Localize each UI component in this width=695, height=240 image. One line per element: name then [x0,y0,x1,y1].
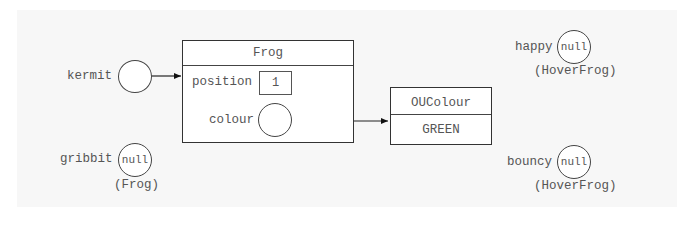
object-divider-frog [183,65,353,66]
object-box-oucolour: OUColour GREEN [390,87,492,145]
variable-value-happy: null [561,41,587,53]
field-label-position: position [192,75,252,89]
variable-label-bouncy: bouncy [507,155,552,169]
variable-circle-bouncy: null [557,145,591,179]
object-value-oucolour: GREEN [391,123,491,137]
object-divider-oucolour [391,114,491,115]
variable-circle-kermit [118,60,152,93]
variable-value-gribbit: null [122,154,148,166]
field-circle-colour [258,103,292,137]
field-value-position: 1 [259,71,292,95]
object-class-name-oucolour: OUColour [391,96,491,110]
variable-type-happy: (HoverFrog) [534,64,617,78]
variable-label-happy: happy [515,40,553,54]
variable-type-bouncy: (HoverFrog) [534,179,617,193]
variable-label-gribbit: gribbit [60,152,113,166]
object-class-name-frog: Frog [183,46,353,60]
variable-value-bouncy: null [561,156,587,168]
variable-circle-happy: null [557,30,591,64]
variable-type-gribbit: (Frog) [114,178,159,192]
variable-circle-gribbit: null [118,143,152,177]
variable-label-kermit: kermit [67,69,112,83]
field-label-colour: colour [209,113,254,127]
